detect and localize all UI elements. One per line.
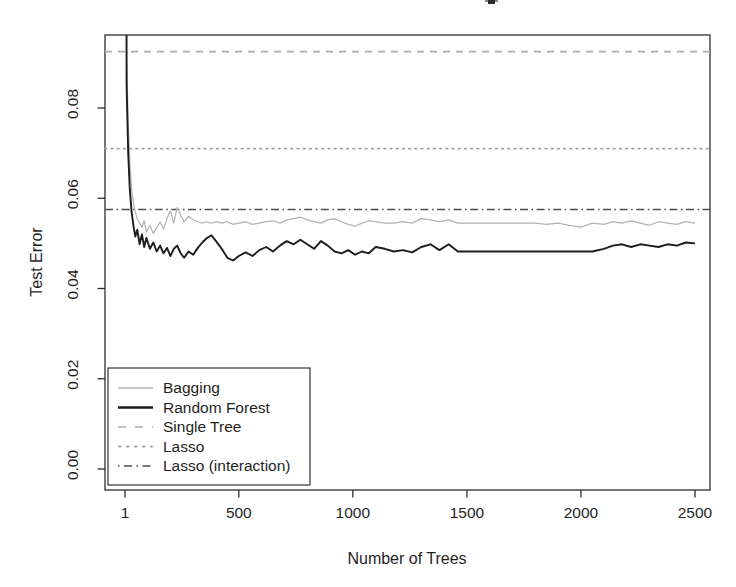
y-tick-label: 0.00 [64,450,81,481]
random-forest-line [125,0,695,261]
x-tick-label: 2500 [678,504,713,521]
x-axis-title: Number of Trees [347,550,466,567]
legend-label-single-tree: Single Tree [163,418,241,435]
y-tick-label: 0.06 [64,179,81,209]
y-axis-title: Test Error [28,227,45,297]
legend-label-random-forest: Random Forest [163,399,271,416]
y-tick-label: 0.02 [64,360,81,390]
y-tick-label: 0.04 [64,269,81,300]
x-tick-label: 2000 [564,504,599,521]
x-axis: 15001000150020002500 [121,490,713,521]
x-tick-label: 1500 [450,504,485,521]
y-tick-label: 0.08 [64,89,81,119]
y-axis: 0.000.020.040.060.08 [64,89,105,480]
chart-svg: 15001000150020002500 0.000.020.040.060.0… [0,0,736,587]
legend: Bagging Random Forest Single Tree Lasso … [108,368,310,485]
legend-label-bagging: Bagging [163,379,220,396]
x-tick-label: 1 [121,504,130,521]
reference-lines [105,52,710,210]
figure: 15001000150020002500 0.000.020.040.060.0… [0,0,736,587]
x-tick-label: 1000 [336,504,371,521]
x-tick-label: 500 [226,504,252,521]
legend-label-lasso-interaction: Lasso (interaction) [163,457,291,474]
series-lines [125,0,695,261]
cropped-title-remnant [485,0,498,4]
legend-label-lasso: Lasso [163,438,204,455]
